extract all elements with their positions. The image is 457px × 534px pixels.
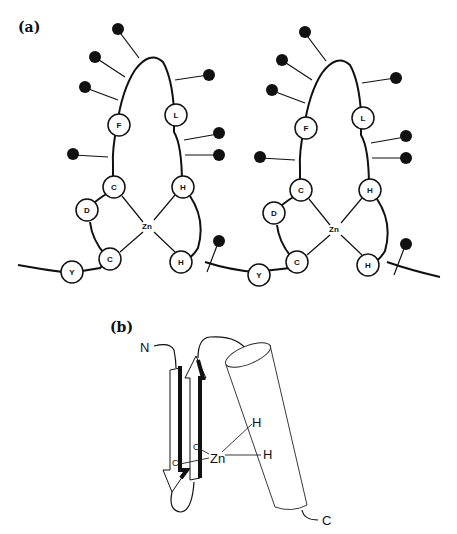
residue-h-lower: H xyxy=(170,251,192,273)
residue-f: F xyxy=(295,117,317,139)
beta-strand-down xyxy=(163,368,187,492)
svg-text:L: L xyxy=(361,114,366,123)
zinc-label: Zn xyxy=(142,222,152,231)
svg-text:Y: Y xyxy=(69,268,75,277)
svg-text:C: C xyxy=(298,186,304,195)
zinc-finger-2: Zn F L C H D C H Y xyxy=(248,26,412,286)
ligand-h-1: H xyxy=(252,415,261,430)
svg-text:Y: Y xyxy=(256,271,262,280)
zinc-label: Zn xyxy=(329,225,339,234)
residue-c-upper: C xyxy=(290,179,312,201)
n-terminus-label: N xyxy=(140,340,149,355)
residue-f: F xyxy=(108,114,130,136)
ligand-c-2: C xyxy=(172,458,179,468)
svg-text:F: F xyxy=(117,121,122,130)
residue-c-upper: C xyxy=(103,176,125,198)
finger-loop-lower-right xyxy=(185,196,201,260)
c-terminus-tail xyxy=(302,510,318,520)
zinc-label-b: Zn xyxy=(210,451,225,466)
c-terminus-label: C xyxy=(322,513,331,528)
residue-d: D xyxy=(76,199,98,221)
residue-l: L xyxy=(352,107,374,129)
n-terminus-tail xyxy=(154,345,176,368)
panel-a-label: (a) xyxy=(18,19,40,35)
zinc-finger-figure: (a) Zn F L C H xyxy=(0,0,457,534)
svg-text:L: L xyxy=(174,111,179,120)
zinc-finger-1: Zn F L C H D C H Y xyxy=(61,23,225,283)
svg-text:C: C xyxy=(107,255,113,264)
beta-strand-up xyxy=(185,356,206,480)
residue-h-upper: H xyxy=(359,179,381,201)
svg-text:H: H xyxy=(178,258,184,267)
residue-h-lower: H xyxy=(357,254,379,276)
ligand-h-2: H xyxy=(263,447,272,462)
svg-text:D: D xyxy=(271,209,277,218)
residue-c-lower: C xyxy=(99,248,121,270)
residue-y: Y xyxy=(61,261,83,283)
residue-h-upper: H xyxy=(172,176,194,198)
svg-text:F: F xyxy=(304,124,309,133)
residue-c-lower: C xyxy=(286,251,308,273)
residue-d: D xyxy=(263,202,285,224)
residue-l: L xyxy=(165,104,187,126)
svg-text:H: H xyxy=(365,261,371,270)
svg-text:C: C xyxy=(294,258,300,267)
panel-b-label: (b) xyxy=(110,319,133,335)
ligand-c-1: C xyxy=(193,442,200,452)
svg-text:D: D xyxy=(84,206,90,215)
alpha-helix xyxy=(222,338,307,510)
svg-text:H: H xyxy=(367,186,373,195)
svg-text:C: C xyxy=(111,183,117,192)
svg-text:H: H xyxy=(180,183,186,192)
residue-y: Y xyxy=(248,264,270,286)
